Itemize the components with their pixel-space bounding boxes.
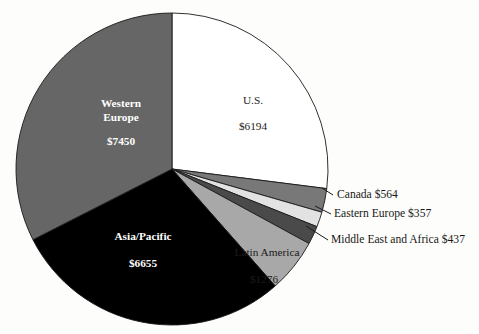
- slice-label-latin-america-value: $1276: [250, 273, 279, 285]
- slice-label-western-europe-name-line1: Western: [101, 97, 142, 109]
- callout-label-canada: Canada $564: [337, 188, 398, 201]
- slice-label-western-europe-value: $7450: [107, 135, 136, 147]
- slice-label-us-name: U.S.: [243, 94, 263, 106]
- slice-label-us-value: $6194: [239, 120, 268, 132]
- slice-label-western-europe-name-line2: Europe: [103, 111, 139, 123]
- callout-label-middle-east-africa: Middle East and Africa $437: [331, 233, 465, 246]
- pie-chart-svg: U.S. $6194 Western Europe $7450 Asia/Pac…: [0, 0, 479, 334]
- slice-label-asia-pacific-value: $6655: [129, 257, 158, 269]
- slice-label-latin-america-name: Latin America: [235, 246, 300, 258]
- pie-slices-group: [16, 13, 328, 325]
- pie-callout-labels-group: Canada $564 Eastern Europe $357 Middle E…: [331, 188, 465, 246]
- slice-label-asia-pacific-name: Asia/Pacific: [114, 230, 171, 242]
- callout-label-eastern-europe: Eastern Europe $357: [334, 207, 431, 220]
- pie-chart-container: U.S. $6194 Western Europe $7450 Asia/Pac…: [0, 0, 479, 334]
